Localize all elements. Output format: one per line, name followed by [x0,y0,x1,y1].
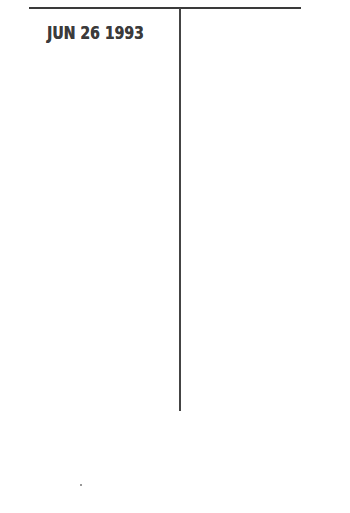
center-vertical-rule [179,8,181,411]
date-stamp: JUN 26 1993 [47,22,144,43]
top-horizontal-rule [29,7,301,9]
ink-speck [80,484,82,486]
